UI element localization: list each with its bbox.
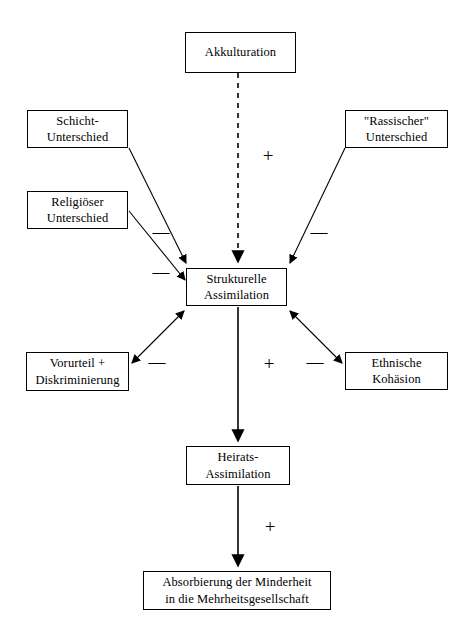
node-label-line2: in die Mehrheitsgesellschaft xyxy=(165,591,309,607)
node-label-line2: Assimilation xyxy=(205,466,270,482)
node-label-line1: Schicht- xyxy=(56,113,98,129)
sign-religioeser-strukturelle: — xyxy=(152,263,170,280)
diagram-canvas: Akkulturation Schicht- Unterschied "Rass… xyxy=(0,0,475,640)
node-label-line2: Diskriminierung xyxy=(35,372,119,388)
sign-akkulturation-strukturelle: + xyxy=(259,146,277,165)
sign-heirats-absorbierung: + xyxy=(261,517,279,536)
node-rassischer-unterschied[interactable]: "Rassischer" Unterschied xyxy=(345,110,448,148)
sign-ethnische-strukturelle: — xyxy=(306,353,324,370)
node-label-line1: Ethnische xyxy=(371,355,421,371)
node-label-line1: "Rassischer" xyxy=(364,113,429,129)
node-label-line1: Heirats- xyxy=(217,449,258,465)
node-schicht-unterschied[interactable]: Schicht- Unterschied xyxy=(27,110,128,148)
sign-rassischer-strukturelle: — xyxy=(310,223,328,240)
node-ethnische-kohaesion[interactable]: Ethnische Kohäsion xyxy=(345,352,448,390)
node-religioeser-unterschied[interactable]: Religiöser Unterschied xyxy=(27,191,128,229)
node-label-line1: Absorbierung der Minderheit xyxy=(162,574,311,590)
node-label-line1: Strukturelle xyxy=(206,271,266,287)
node-strukturelle-assimilation[interactable]: Strukturelle Assimilation xyxy=(186,268,287,306)
node-label-line2: Unterschied xyxy=(366,129,428,145)
node-label-line2: Unterschied xyxy=(47,210,109,226)
node-label-line1: Vorurteil + xyxy=(50,355,105,371)
node-heirats-assimilation[interactable]: Heirats- Assimilation xyxy=(186,446,290,485)
sign-vorurteil-strukturelle: — xyxy=(148,353,166,370)
edge-layer xyxy=(0,0,475,640)
sign-schicht-strukturelle: — xyxy=(152,223,170,240)
node-label-line1: Akkulturation xyxy=(205,44,276,60)
node-label-line2: Unterschied xyxy=(47,129,109,145)
node-vorurteil-diskriminierung[interactable]: Vorurteil + Diskriminierung xyxy=(26,352,129,391)
node-absorbierung-minderheit[interactable]: Absorbierung der Minderheit in die Mehrh… xyxy=(143,571,331,610)
sign-strukturelle-heirats: + xyxy=(260,354,278,373)
node-label-line2: Assimilation xyxy=(204,287,269,303)
node-label-line1: Religiöser xyxy=(51,194,103,210)
edge-rassischer-strukturelle xyxy=(290,148,345,263)
node-label-line2: Kohäsion xyxy=(372,371,421,387)
node-akkulturation[interactable]: Akkulturation xyxy=(185,32,296,73)
